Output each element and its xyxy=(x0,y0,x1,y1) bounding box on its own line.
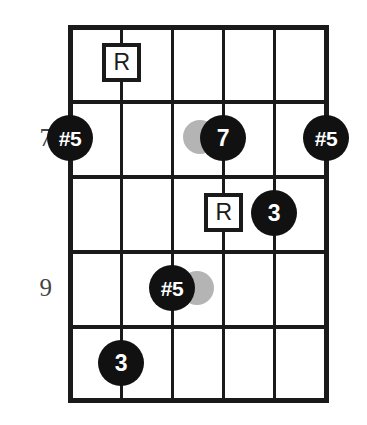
note-marker-sharp5-row2-string1[interactable]: #5 xyxy=(47,115,93,161)
note-marker-sharp5-row4-string3[interactable]: #5 xyxy=(149,265,195,311)
fret-number-label-7: 7 xyxy=(12,125,52,150)
note-marker-third-row3-string5[interactable]: 3 xyxy=(251,190,297,236)
note-marker-seventh-row2-string4[interactable]: 7 xyxy=(200,115,246,161)
note-marker-root-row1-string2[interactable]: R xyxy=(102,43,141,82)
note-marker-label: #5 xyxy=(315,128,337,149)
fret-number-label-9: 9 xyxy=(12,275,52,300)
note-marker-label: #5 xyxy=(161,278,183,299)
note-marker-label: R xyxy=(215,201,231,224)
fretboard-diagram: 7 9 R #5 7 #5 R 3 #5 3 xyxy=(0,0,367,425)
note-marker-label: #5 xyxy=(59,128,81,149)
note-marker-third-row5-string2[interactable]: 3 xyxy=(98,340,144,386)
string-line-1 xyxy=(68,25,73,403)
fret-line-5 xyxy=(70,398,328,403)
fret-line-nut xyxy=(70,25,328,30)
note-marker-sharp5-row2-string6[interactable]: #5 xyxy=(303,115,349,161)
fret-line-4 xyxy=(70,325,328,329)
note-marker-label: R xyxy=(113,51,129,74)
fret-line-2 xyxy=(70,175,328,179)
string-line-6 xyxy=(324,25,329,403)
fret-line-3 xyxy=(70,250,328,254)
note-marker-label: 3 xyxy=(268,202,280,225)
string-line-3 xyxy=(171,25,174,403)
note-marker-label: 3 xyxy=(115,352,127,375)
fret-line-1 xyxy=(70,100,328,104)
note-marker-label: 7 xyxy=(217,127,229,150)
note-marker-root-row3-string4[interactable]: R xyxy=(204,193,243,232)
